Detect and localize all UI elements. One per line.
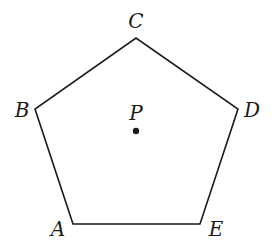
vertex-label-b: B xyxy=(14,98,30,122)
vertex-label-d: D xyxy=(243,98,260,122)
vertex-label-a: A xyxy=(49,217,65,241)
center-point-p xyxy=(133,128,139,134)
pentagon-diagram: A B C D E P xyxy=(0,0,272,243)
center-label-p: P xyxy=(128,101,143,125)
vertex-label-c: C xyxy=(128,9,143,33)
vertex-label-e: E xyxy=(208,217,224,241)
